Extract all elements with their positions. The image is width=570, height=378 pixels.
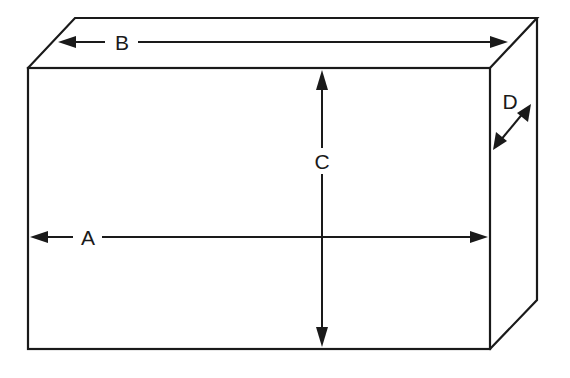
label-d: D [499,91,520,112]
box-outline [28,18,537,349]
front-face [28,68,490,349]
arrowhead-right-icon [470,231,488,243]
label-a: A [78,227,98,248]
arrowhead-down-icon [316,327,328,347]
arrowhead-right-icon [490,36,508,48]
label-c: C [311,151,332,172]
box-dimension-diagram: B A C D [0,0,570,378]
arrowhead-left-icon [58,36,76,48]
dimension-a-arrow [30,231,488,243]
box-drawing [0,0,570,378]
label-b: B [112,32,132,53]
dimension-c-arrow [316,70,328,347]
arrowhead-up-icon [316,70,328,90]
right-face [490,18,537,349]
arrowhead-left-icon [30,231,48,243]
